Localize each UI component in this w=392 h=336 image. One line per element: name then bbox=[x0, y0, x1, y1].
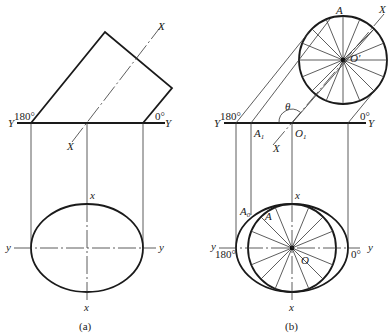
label-x-top: x bbox=[89, 189, 95, 201]
label-O1: O1 bbox=[295, 127, 306, 141]
label-A0: A0 bbox=[239, 205, 251, 219]
projection-diagram: X X Y Y 180° 0° x x y y (a) bbox=[0, 0, 392, 336]
label-y-left: y bbox=[5, 241, 11, 253]
label-180-top: 180° bbox=[220, 110, 241, 122]
label-0-deg: 0° bbox=[155, 110, 165, 122]
label-x-bottom: x bbox=[83, 301, 89, 313]
figure-b: A X O' θ Y Y 180° 0° A1 O1 X x x A0 A y … bbox=[210, 3, 387, 333]
label-X-top: X bbox=[378, 3, 387, 15]
label-X-bottom: X bbox=[66, 140, 75, 152]
label-O-prime: O' bbox=[350, 52, 361, 64]
projector-180-inclined bbox=[236, 32, 309, 123]
label-X-bottom: X bbox=[272, 142, 281, 154]
label-0-bottom: 0° bbox=[351, 248, 361, 260]
label-A-top: A bbox=[335, 4, 343, 16]
label-y-right: y bbox=[158, 241, 164, 253]
caption-b: (b) bbox=[285, 320, 298, 333]
figure-a: X X Y Y 180° 0° x x y y (a) bbox=[5, 20, 173, 333]
label-180-deg: 180° bbox=[14, 110, 35, 122]
label-y-right: y bbox=[367, 241, 373, 253]
label-A1: A1 bbox=[253, 127, 264, 141]
label-0-top: 0° bbox=[360, 110, 370, 122]
projector-A-inclined bbox=[251, 19, 330, 123]
label-180-bottom: 180° bbox=[215, 248, 236, 260]
label-X-top: X bbox=[157, 20, 166, 32]
inclined-face-outline bbox=[31, 32, 172, 123]
label-A-bottom: A bbox=[264, 210, 272, 222]
label-x-bottom: x bbox=[288, 301, 294, 313]
label-Y-right: Y bbox=[165, 117, 173, 129]
label-x-top: x bbox=[294, 189, 300, 201]
caption-a: (a) bbox=[79, 320, 92, 333]
label-theta: θ bbox=[285, 100, 291, 112]
label-O: O bbox=[301, 254, 309, 266]
